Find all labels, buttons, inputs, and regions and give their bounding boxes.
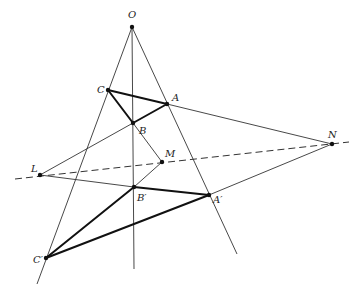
point-Bp xyxy=(132,185,136,189)
label-N: N xyxy=(327,129,338,140)
point-Cp xyxy=(44,256,48,260)
label-O: O xyxy=(128,9,136,20)
label-Bp: B′ xyxy=(136,192,147,203)
point-Ap xyxy=(207,193,211,197)
point-L xyxy=(38,173,42,177)
label-A: A xyxy=(171,92,179,103)
line-A-N xyxy=(167,104,332,144)
point-A xyxy=(165,102,169,106)
line-O-C-Cp xyxy=(37,27,132,284)
point-labels: OCABLMNB′A′C′ xyxy=(30,9,338,265)
label-L: L xyxy=(30,163,38,174)
line-O-B-Bp xyxy=(132,27,134,269)
desargues-figure: OCABLMNB′A′C′ xyxy=(0,0,361,296)
line-B-M xyxy=(133,123,162,162)
side-Ap-Cp xyxy=(46,195,209,258)
line-L-Bp xyxy=(40,175,134,187)
line-O-A-Ap xyxy=(132,27,237,254)
side-A-B xyxy=(133,104,167,123)
triangles xyxy=(46,90,209,258)
point-N xyxy=(330,142,334,146)
point-M xyxy=(160,160,164,164)
label-M: M xyxy=(164,148,176,159)
label-Cp: C′ xyxy=(33,254,44,265)
line-Ap-N xyxy=(209,144,332,195)
label-C: C xyxy=(97,84,105,95)
point-C xyxy=(106,88,110,92)
label-Ap: A′ xyxy=(212,194,223,205)
label-B: B xyxy=(138,125,146,136)
points xyxy=(38,25,334,260)
point-O xyxy=(130,25,134,29)
point-B xyxy=(131,121,135,125)
side-Cp-Bp xyxy=(46,187,134,258)
projection-lines xyxy=(37,27,332,284)
diagram-canvas: OCABLMNB′A′C′ xyxy=(0,0,361,296)
